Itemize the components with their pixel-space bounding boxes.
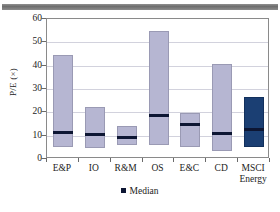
range-bar bbox=[85, 107, 105, 148]
x-axis-tick-label-line1: MSCI bbox=[241, 163, 264, 173]
x-axis-tick-label-line1: CD bbox=[215, 163, 228, 173]
x-axis-tick-label-line1: E&C bbox=[180, 163, 200, 173]
x-axis-tick-mark bbox=[269, 158, 270, 162]
median-line bbox=[85, 133, 105, 136]
x-axis-tick-mark bbox=[110, 158, 111, 162]
x-axis-tick-label-line2: Energy bbox=[239, 174, 266, 185]
range-bar bbox=[244, 97, 264, 147]
x-axis-tick-mark bbox=[237, 158, 238, 162]
scan-artifact-bar bbox=[2, 4, 278, 10]
x-axis-tick-mark bbox=[142, 158, 143, 162]
legend-label-median: Median bbox=[129, 186, 158, 196]
x-axis-tick-mark bbox=[173, 158, 174, 162]
x-axis-tick-label: IO bbox=[89, 163, 99, 174]
x-axis-tick-label-line1: IO bbox=[89, 163, 99, 173]
x-axis-tick-label: R&M bbox=[115, 163, 137, 174]
y-axis-tick-label: 20 bbox=[12, 106, 42, 116]
range-bar bbox=[117, 126, 137, 146]
y-axis-tick-label: 60 bbox=[12, 13, 42, 23]
x-axis-tick-mark bbox=[46, 158, 47, 162]
x-axis-tick-label: E&C bbox=[180, 163, 200, 174]
y-axis-tick-label: 50 bbox=[12, 36, 42, 46]
y-axis-tick-label: 10 bbox=[12, 130, 42, 140]
range-bar bbox=[212, 64, 232, 151]
y-axis-tick-label: 30 bbox=[12, 83, 42, 93]
x-axis-tick-label: CD bbox=[215, 163, 228, 174]
median-line bbox=[117, 136, 137, 139]
x-axis-tick-mark bbox=[78, 158, 79, 162]
x-axis-tick-label-line1: R&M bbox=[115, 163, 137, 173]
median-line bbox=[149, 114, 169, 117]
x-axis-tick-mark bbox=[205, 158, 206, 162]
x-axis-tick-label: E&P bbox=[53, 163, 71, 174]
median-line bbox=[180, 123, 200, 126]
plot-area bbox=[46, 18, 269, 158]
median-line bbox=[212, 132, 232, 135]
range-bar bbox=[53, 55, 73, 148]
median-line bbox=[244, 128, 264, 131]
chart-figure: P/E (×) 0102030405060 E&PIOR&MOSE&CCDMSC… bbox=[0, 0, 280, 212]
legend: Median bbox=[0, 186, 280, 196]
y-axis-tick-label: 40 bbox=[12, 60, 42, 70]
x-axis-tick-label: OS bbox=[151, 163, 163, 174]
y-axis-tick-label: 0 bbox=[12, 153, 42, 163]
x-axis-tick-label-line1: OS bbox=[151, 163, 163, 173]
range-bar bbox=[149, 31, 169, 146]
median-line bbox=[53, 131, 73, 134]
median-marker-icon bbox=[121, 188, 126, 193]
range-bar bbox=[180, 113, 200, 147]
x-axis-tick-label-line1: E&P bbox=[53, 163, 71, 173]
x-axis-tick-label: MSCIEnergy bbox=[239, 163, 266, 185]
